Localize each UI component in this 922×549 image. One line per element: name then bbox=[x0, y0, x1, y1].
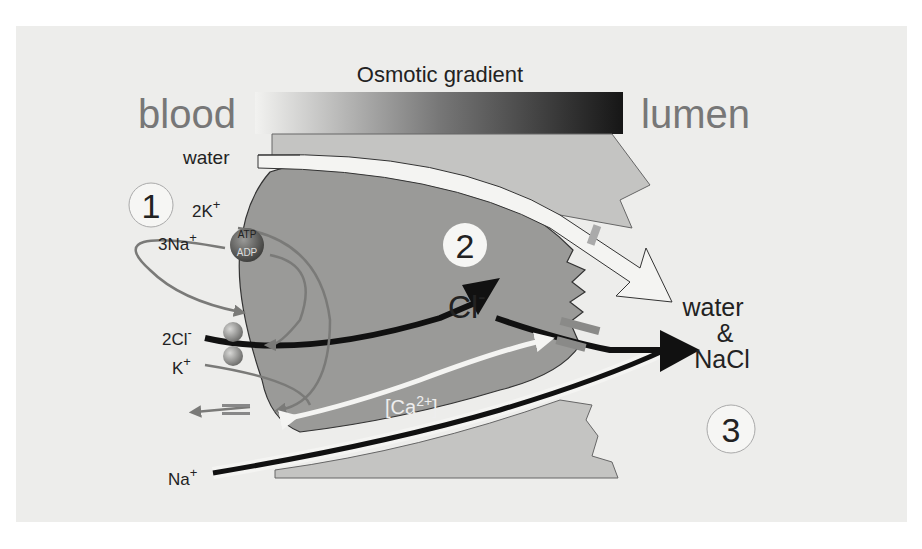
adp-label: ADP bbox=[237, 247, 258, 258]
ion-transport-diagram: ATP ADP 1 2 3 Osmotic gradient blood lum… bbox=[16, 26, 907, 522]
na-pump-label: 3Na+ bbox=[158, 230, 197, 254]
cl-cotransport-label: 2Cl- bbox=[162, 325, 192, 349]
step-marker-1: 1 bbox=[142, 187, 161, 225]
blood-label: blood bbox=[138, 92, 236, 136]
k-cotransport-label: K+ bbox=[172, 354, 191, 378]
osmotic-gradient-bar bbox=[255, 92, 623, 134]
lumen-label: lumen bbox=[641, 92, 750, 136]
figure-title: Osmotic gradient bbox=[357, 62, 523, 87]
step-marker-3: 3 bbox=[722, 411, 741, 449]
atp-label: ATP bbox=[238, 229, 257, 240]
cotransporter-ball-2 bbox=[223, 346, 243, 366]
calcium-label: [Ca2+] bbox=[385, 393, 438, 418]
cotransporter-ball-1 bbox=[223, 322, 243, 342]
output-ampersand-label: & bbox=[717, 319, 734, 347]
k-pump-label: 2K+ bbox=[192, 197, 220, 221]
output-water-label: water bbox=[681, 293, 743, 321]
step-marker-2: 2 bbox=[456, 227, 475, 265]
water-in-label: water bbox=[182, 147, 230, 168]
diagram-panel: ATP ADP 1 2 3 Osmotic gradient blood lum… bbox=[16, 26, 907, 522]
output-nacl-label: NaCl bbox=[694, 345, 750, 373]
na-paracellular-label: Na+ bbox=[168, 465, 197, 489]
